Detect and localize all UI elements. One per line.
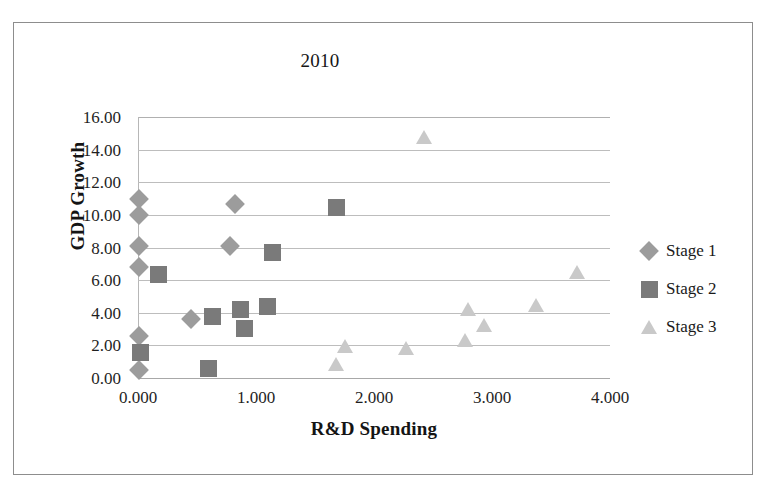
gridline (138, 280, 610, 281)
data-point-triangle (457, 333, 473, 347)
y-axis-tick-label: 4.00 (51, 305, 121, 322)
data-point-square (232, 301, 249, 318)
legend-item-stage-2[interactable]: Stage 2 (640, 270, 752, 308)
data-point-square (150, 266, 167, 283)
diamond-marker-icon (639, 241, 659, 261)
data-point-diamond (220, 236, 240, 256)
y-axis-tick-label: 0.00 (51, 370, 121, 387)
square-marker-icon (641, 281, 658, 298)
gridline (138, 248, 610, 249)
data-point-triangle (328, 357, 344, 371)
legend-square-icon (640, 280, 658, 298)
data-point-triangle (569, 265, 585, 279)
y-axis-tick-label: 6.00 (51, 272, 121, 289)
x-axis-title: R&D Spending (138, 418, 610, 440)
legend-item-stage-1[interactable]: Stage 1 (640, 232, 752, 270)
y-axis-tick-label: 2.00 (51, 337, 121, 354)
gridline (138, 345, 610, 346)
legend-label: Stage 1 (666, 241, 717, 261)
data-point-square (264, 244, 281, 261)
y-axis-tick-label: 16.00 (51, 109, 121, 126)
data-point-square (259, 298, 276, 315)
legend-label: Stage 3 (666, 317, 717, 337)
gridline (138, 215, 610, 216)
data-point-triangle (416, 130, 432, 144)
data-point-triangle (398, 341, 414, 355)
plot-area (138, 117, 610, 378)
legend-item-stage-3[interactable]: Stage 3 (640, 308, 752, 346)
y-axis-tick-label: 10.00 (51, 207, 121, 224)
y-axis-tick-label: 14.00 (51, 142, 121, 159)
data-point-square (200, 360, 217, 377)
x-axis-tick-label: 2.000 (334, 389, 414, 406)
x-axis-line (138, 378, 610, 379)
legend-diamond-icon (640, 242, 658, 260)
legend-triangle-icon (640, 318, 658, 336)
data-point-square (328, 199, 345, 216)
x-axis-tick-label: 4.000 (570, 389, 650, 406)
gridline (138, 150, 610, 151)
data-point-triangle (460, 302, 476, 316)
y-axis-tick-label: 8.00 (51, 240, 121, 257)
x-axis-tick-label: 3.000 (452, 389, 532, 406)
data-point-square (236, 320, 253, 337)
data-point-triangle (528, 298, 544, 312)
data-point-triangle (337, 339, 353, 353)
x-axis-tick-label: 0.000 (98, 389, 178, 406)
legend-label: Stage 2 (666, 279, 717, 299)
triangle-marker-icon (641, 320, 657, 334)
plot-top-border (138, 117, 610, 118)
gridline (138, 182, 610, 183)
y-axis-tick-label: 12.00 (51, 174, 121, 191)
y-axis-title: GDP Growth (67, 106, 89, 286)
data-point-triangle (476, 318, 492, 332)
chart-figure: 2010 GDP Growth R&D Spending 0.002.004.0… (0, 0, 769, 499)
data-point-diamond (225, 194, 245, 214)
data-point-square (132, 344, 149, 361)
x-axis-tick-label: 1.000 (216, 389, 296, 406)
chart-title: 2010 (0, 50, 640, 72)
data-point-square (204, 308, 221, 325)
chart-legend: Stage 1Stage 2Stage 3 (640, 232, 752, 346)
